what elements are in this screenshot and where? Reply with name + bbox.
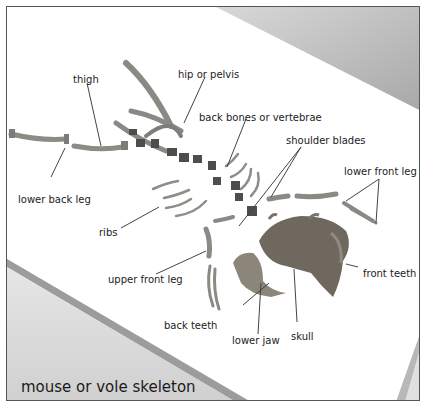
label-lower-jaw: lower jaw (232, 335, 280, 347)
skeleton-figure: thigh hip or pelvis back bones or verteb… (0, 0, 427, 411)
label-front-teeth: front teeth (363, 268, 416, 280)
label-hip-or-pelvis: hip or pelvis (178, 69, 239, 81)
figure-title: mouse or vole skeleton (21, 378, 196, 396)
label-ribs: ribs (99, 227, 117, 239)
label-shoulder-blades: shoulder blades (286, 135, 366, 147)
label-back-teeth: back teeth (164, 320, 217, 332)
label-upper-front-leg: upper front leg (108, 274, 183, 286)
label-back-bones: back bones or vertebrae (199, 112, 322, 124)
label-skull: skull (291, 331, 314, 343)
label-thigh: thigh (73, 74, 99, 86)
photo-panel: thigh hip or pelvis back bones or verteb… (6, 6, 420, 401)
label-lower-front-leg: lower front leg (344, 166, 417, 178)
label-lower-back-leg: lower back leg (18, 194, 91, 206)
